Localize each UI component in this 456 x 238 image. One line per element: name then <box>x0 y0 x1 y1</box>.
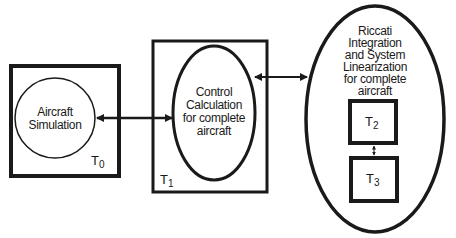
t2-tag: T2 <box>365 114 379 131</box>
tag-letter: T <box>365 114 373 129</box>
t0-tag: T0 <box>91 153 105 170</box>
control-calculation-label: Control Calculation for complete aircraf… <box>174 86 254 138</box>
label-line: aircraft <box>325 85 425 97</box>
label-line: aircraft <box>174 125 254 138</box>
tag-letter: T <box>366 171 374 186</box>
tag-sub: 1 <box>168 178 174 189</box>
tag-sub: 0 <box>99 159 105 170</box>
riccati-label: Riccati Integration and System Lineariza… <box>325 25 425 97</box>
label-line: Simulation <box>15 119 95 132</box>
t1-tag: T1 <box>160 172 174 189</box>
tag-sub: 2 <box>373 120 379 131</box>
tag-sub: 3 <box>374 177 380 188</box>
tag-letter: T <box>160 172 168 187</box>
aircraft-simulation-label: Aircraft Simulation <box>15 106 95 132</box>
t3-tag: T3 <box>366 171 380 188</box>
tag-letter: T <box>91 153 99 168</box>
